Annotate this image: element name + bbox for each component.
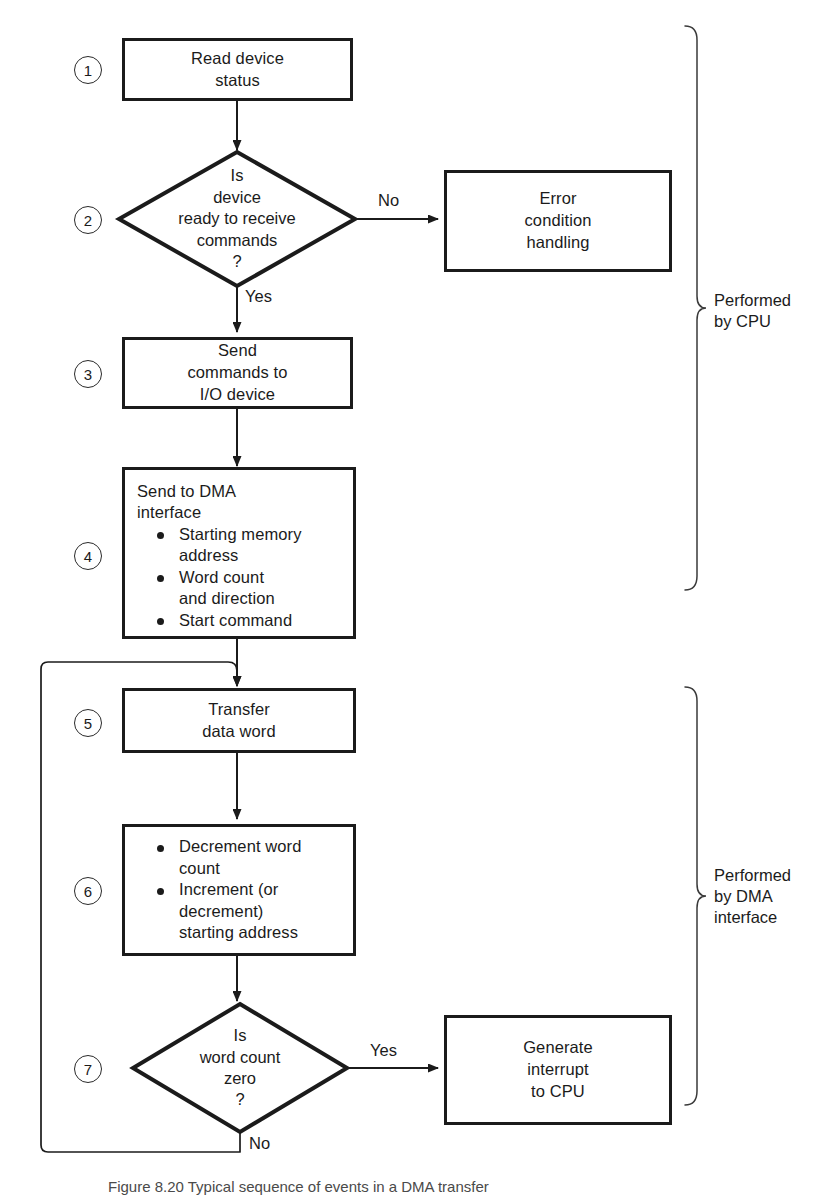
decision-device-ready-label: Is device ready to receive commands ? [117,156,357,282]
process-send-to-dma-interface: Send to DMA interface Starting memory ad… [122,467,356,639]
process-send-commands-io-device: Send commands to I/O device [122,337,353,409]
process-transfer-data-word-label: Transfer data word [202,699,275,743]
process-send-to-dma-interface-headline: Send to DMA interface [137,481,353,524]
step-number-1: 1 [74,56,102,84]
step-number-2: 2 [74,206,102,234]
step-number-6: 6 [74,877,102,905]
figure-caption: Figure 8.20 Typical sequence of events i… [108,1178,489,1196]
bracket-label-performed-by-dma-interface: Performed by DMA interface [714,865,820,928]
process-update-count-and-address: Decrement word count Increment (or decre… [122,824,356,956]
process-error-condition-handling: Error condition handling [444,170,672,272]
step-number-4: 4 [74,542,102,570]
list-item: Decrement word count [137,836,353,879]
process-send-to-dma-interface-body: Send to DMA interface Starting memory ad… [125,470,353,631]
step-number-3: 3 [74,360,102,388]
list-item: Increment (or decrement) starting addres… [137,879,353,943]
process-read-device-status-label: Read device status [191,48,284,92]
process-send-commands-io-device-label: Send commands to I/O device [187,340,287,406]
dma-update-list: Decrement word count Increment (or decre… [137,836,353,943]
process-update-count-and-address-body: Decrement word count Increment (or decre… [125,836,353,943]
edge-label-yes-step2: Yes [245,288,272,305]
list-item: Word count and direction [137,567,353,610]
edge-label-no-step2: No [378,192,399,209]
process-read-device-status: Read device status [122,38,353,101]
edge-label-yes-step7: Yes [370,1042,397,1059]
process-generate-interrupt-to-cpu-label: Generate interrupt to CPU [523,1037,593,1103]
list-item: Start command [137,610,353,631]
bracket-label-performed-by-cpu: Performed by CPU [714,290,820,332]
process-error-condition-handling-label: Error condition handling [525,188,592,254]
edge-label-no-step7: No [249,1135,270,1152]
decision-word-count-zero-label: Is word count zero ? [135,1012,345,1124]
dma-parameter-list: Starting memory address Word count and d… [137,524,353,631]
list-item: Starting memory address [137,524,353,567]
process-generate-interrupt-to-cpu: Generate interrupt to CPU [444,1015,672,1125]
step-number-7: 7 [74,1055,102,1083]
process-transfer-data-word: Transfer data word [122,688,356,753]
step-number-5: 5 [74,709,102,737]
